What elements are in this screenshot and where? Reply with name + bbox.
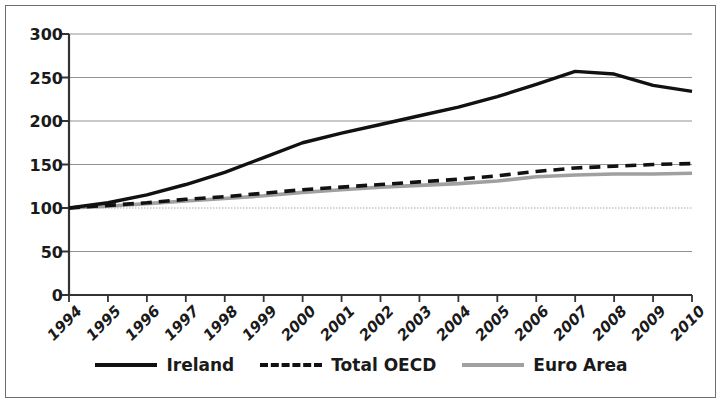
chart-figure: 300250200150100500 199419951996199719981… — [0, 0, 723, 405]
legend-swatch-icon-euro-area — [462, 363, 524, 367]
legend-label: Total OECD — [331, 355, 436, 375]
legend-item-total-oecd[interactable]: Total OECD — [260, 355, 436, 375]
x-axis-tick-labels: 1994199519961997199819992000200120022003… — [0, 0, 723, 405]
legend-label: Ireland — [166, 355, 234, 375]
legend-swatch-icon-total-oecd — [260, 363, 322, 367]
legend-item-euro-area[interactable]: Euro Area — [462, 355, 627, 375]
legend-label: Euro Area — [533, 355, 627, 375]
legend-swatch-icon-ireland — [95, 363, 157, 367]
chart-legend: IrelandTotal OECDEuro Area — [0, 355, 723, 375]
legend-item-ireland[interactable]: Ireland — [95, 355, 234, 375]
